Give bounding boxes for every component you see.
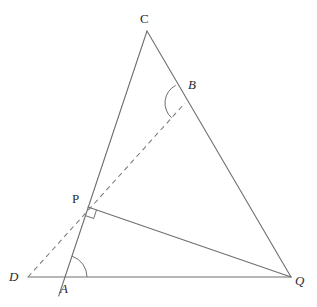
geometry-figure: C B P D A Q xyxy=(0,0,317,307)
vertex-label-A: A xyxy=(60,282,68,295)
vertex-label-D: D xyxy=(9,270,18,283)
segment-CQ xyxy=(147,31,291,277)
segment-DB xyxy=(28,103,185,277)
vertex-label-B: B xyxy=(188,78,196,91)
segment-CA xyxy=(59,31,147,296)
vertex-label-C: C xyxy=(140,12,149,25)
vertex-label-Q: Q xyxy=(295,274,304,287)
segment-PQ xyxy=(88,207,291,277)
vertex-label-P: P xyxy=(72,192,79,205)
geometry-canvas xyxy=(0,0,317,307)
angle-arc-at-A xyxy=(72,256,87,277)
angle-arc-at-B-main xyxy=(165,85,176,118)
